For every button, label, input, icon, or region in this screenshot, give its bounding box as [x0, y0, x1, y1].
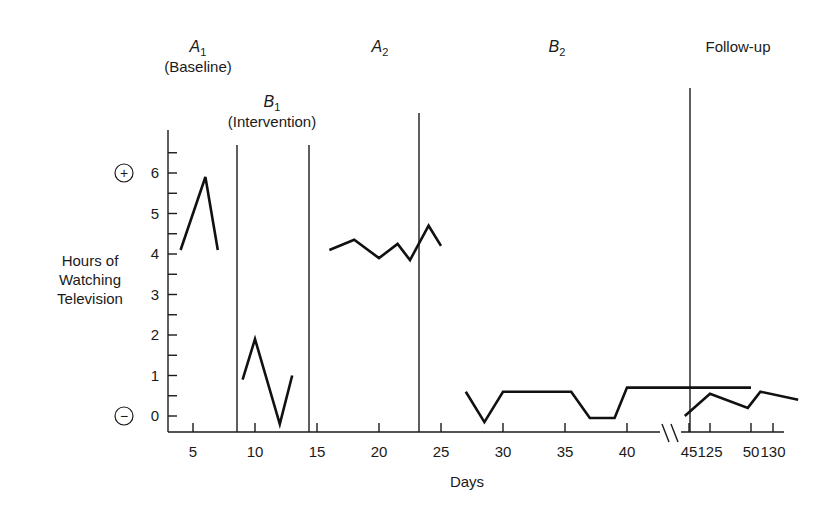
y-tick-label: 1 [151, 367, 159, 384]
x-tick-label: 45 [681, 443, 698, 460]
axis-break-mark [662, 424, 669, 442]
svg-text:+: + [120, 165, 128, 181]
y-tick-label: 2 [151, 326, 159, 343]
series-line [685, 392, 798, 416]
phase-label: A1 [189, 38, 207, 58]
y-axis-label: Hours of [62, 252, 120, 269]
chart-labels: A1(Baseline)B1(Intervention)A2B2Follow-u… [164, 38, 770, 130]
y-axis-label: Watching [59, 271, 121, 288]
x-tick-label: 15 [309, 443, 326, 460]
single-subject-design-chart: 0123456+−5101520253035404550125130DaysHo… [0, 0, 824, 523]
x-tick-label: 125 [697, 443, 722, 460]
phase-label: B2 [549, 38, 566, 58]
x-tick-label: 20 [371, 443, 388, 460]
data-series [181, 177, 799, 424]
x-tick-label: 30 [495, 443, 512, 460]
y-axis-label: Television [57, 290, 123, 307]
x-tick-label: 5 [189, 443, 197, 460]
svg-text:−: − [120, 408, 128, 424]
series-line [466, 388, 751, 423]
x-tick-label: 50 [743, 443, 760, 460]
x-tick-label: 130 [760, 443, 785, 460]
y-tick-label: 5 [151, 205, 159, 222]
x-tick-label: 35 [557, 443, 574, 460]
y-tick-label: 4 [151, 245, 159, 262]
series-line [329, 226, 441, 260]
x-tick-label: 10 [247, 443, 264, 460]
phase-description: (Baseline) [164, 58, 232, 75]
x-tick-label: 40 [619, 443, 636, 460]
phase-description: (Intervention) [228, 113, 316, 130]
series-line [181, 177, 218, 250]
x-tick-label: 25 [433, 443, 450, 460]
y-tick-label: 3 [151, 286, 159, 303]
phase-label: A2 [371, 38, 389, 58]
phase-dividers [237, 88, 690, 432]
phase-label: Follow-up [705, 38, 770, 55]
y-tick-label: 6 [151, 164, 159, 181]
x-axis-label: Days [450, 473, 484, 490]
series-line [243, 339, 293, 424]
y-tick-label: 0 [151, 407, 159, 424]
phase-label: B1 [264, 93, 281, 113]
axes: 0123456+−5101520253035404550125130DaysHo… [57, 130, 785, 490]
